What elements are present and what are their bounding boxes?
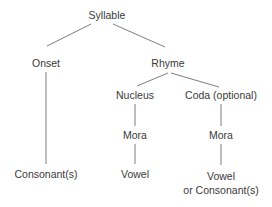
node-vowel: Vowel [121, 168, 149, 181]
node-mora-coda: Mora [209, 129, 233, 142]
node-coda-leaf-line2: or Consonant(s) [183, 184, 258, 197]
syllable-structure-diagram: Syllable Onset Rhyme Nucleus Coda (optio… [0, 0, 272, 207]
node-nucleus: Nucleus [116, 89, 154, 102]
edge-rhyme-nucleus [137, 73, 168, 86]
edge-syllable-onset [47, 24, 91, 46]
node-onset: Onset [32, 57, 60, 70]
edge-syllable-rhyme [113, 24, 165, 47]
node-mora-nucleus: Mora [123, 129, 147, 142]
node-coda: Coda (optional) [185, 89, 257, 102]
node-consonants: Consonant(s) [14, 168, 77, 181]
node-rhyme: Rhyme [151, 57, 184, 70]
node-coda-leaf-line1: Vowel [207, 170, 235, 183]
node-syllable: Syllable [89, 9, 126, 22]
edge-rhyme-coda [171, 73, 219, 87]
